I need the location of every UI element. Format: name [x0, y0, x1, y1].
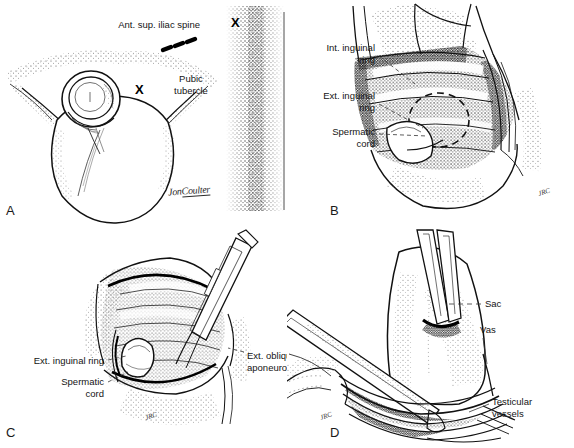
external-inguinal-ring-c — [122, 338, 154, 376]
artist-initials-d: JRC — [319, 410, 333, 422]
lateral-stipple-band — [226, 6, 284, 211]
label-vas: Vas — [480, 324, 528, 336]
panel-letter-d: D — [330, 425, 340, 440]
label-ext-inguinal-ring: Ext. inguinal ring — [287, 90, 375, 113]
x-marker-iliac-icon: X — [231, 15, 240, 30]
label-pubic-tubercle: Pubic tubercle — [160, 73, 222, 96]
panel-letter-c: C — [6, 425, 16, 440]
label-ext-oblique-aponeurosis: Ext. oblique aponeurosis — [247, 350, 287, 373]
panel-letter-a: A — [6, 203, 15, 218]
panel-letter-b: B — [330, 203, 339, 218]
iliac-spine-dash-marker — [163, 39, 195, 50]
panel-a: Ant. sup. iliac spine X Pubic tubercle X… — [0, 0, 287, 224]
label-ext-inguinal-ring-c: Ext. inguinal ring — [8, 355, 104, 367]
panel-b: Int. inguinal ring Ext. inguinal ring Sp… — [287, 0, 574, 224]
panel-c: JRC Ext. inguinal ring Spermatic cord Ex… — [0, 224, 287, 448]
x-marker-pubic-icon: X — [135, 82, 144, 97]
label-spermatic-cord-b: Spermatic cord — [287, 126, 375, 149]
label-testicular-vessels: Testicular vessels — [492, 396, 554, 419]
signature-last-name: Coulter — [181, 184, 210, 198]
label-ant-sup-iliac-spine: Ant. sup. iliac spine — [80, 19, 200, 31]
label-sac: Sac — [485, 298, 533, 310]
label-spermatic-cord-c: Spermatic cord — [36, 376, 104, 399]
panel-a-artwork — [0, 0, 287, 224]
signature-first-name: Jon — [168, 186, 182, 198]
artist-signature: JonCoulter — [168, 184, 211, 198]
label-int-inguinal-ring: Int. inguinal ring — [287, 42, 375, 65]
panel-d: JRC Sac Vas Testicular vessels D — [287, 224, 574, 448]
panel-c-artwork: JRC — [0, 224, 287, 448]
figure-container: Ant. sup. iliac spine X Pubic tubercle X… — [0, 0, 574, 448]
